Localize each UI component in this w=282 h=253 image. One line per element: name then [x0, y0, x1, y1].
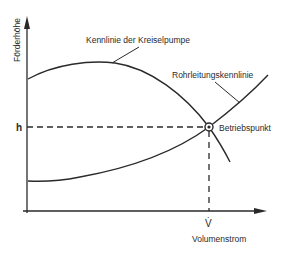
y-axis-label: Förderhöhe — [12, 18, 22, 62]
pump-curve-label: Kennlinie der Kreiselpumpe — [86, 35, 190, 45]
x-axis-label: Volumenstrom — [192, 234, 246, 244]
pump-diagram: Förderhöhe Volumenstrom Kennlinie der Kr… — [0, 0, 282, 253]
operating-point-dot — [207, 125, 210, 128]
y-axis-arrow-icon — [24, 16, 30, 29]
x-axis-arrow-icon — [254, 208, 267, 214]
pipe-label-leader — [215, 82, 240, 103]
operating-point-label: Betriebspunkt — [219, 123, 272, 133]
pipe-curve-label: Rohrleitungskennlinie — [172, 70, 254, 80]
h-symbol: h — [16, 122, 22, 133]
pump-label-leader — [112, 47, 139, 63]
v-symbol: V̇ — [205, 217, 212, 229]
